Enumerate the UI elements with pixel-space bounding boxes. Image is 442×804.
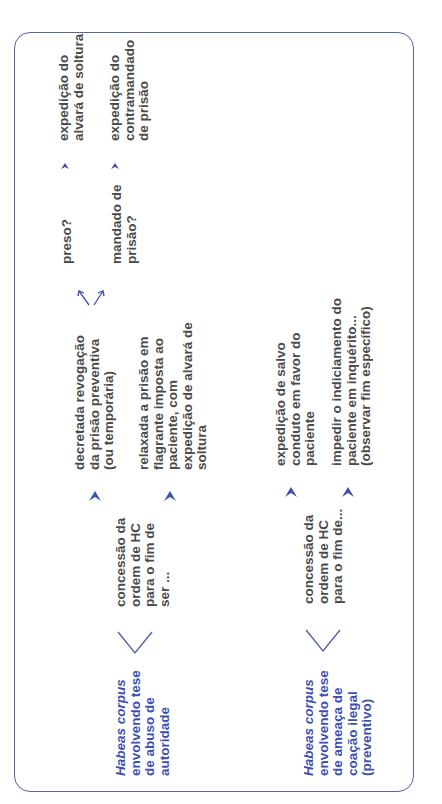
arrow-right-icon xyxy=(284,486,298,498)
result-contramandado: expedição do contramandado de prisão xyxy=(108,40,152,141)
arrow-right-icon xyxy=(163,490,177,502)
connector-concessao-abuso: concessão da ordem de HC para o fim de s… xyxy=(114,518,172,607)
outcome-impedir-indiciamento: impedir o indiciamento do paciente em in… xyxy=(330,298,374,466)
root-rest-label: envolvendo tese de ameaça de coação ileg… xyxy=(316,670,375,776)
arrow-right-icon xyxy=(341,486,355,498)
outcome-relaxada-prisao: relaxada a prisão em flagrante imposta a… xyxy=(137,322,210,470)
branch-chevron-icon xyxy=(116,630,154,656)
split-arrows-icon xyxy=(76,289,106,307)
branch-chevron-icon xyxy=(304,628,342,654)
rotated-diagram: Habeas corpus envolvendo tese de abuso d… xyxy=(0,0,442,804)
outcome-salvo-conduto: expedição de salvo conduto em favor do p… xyxy=(274,332,318,466)
connector-concessao-preventivo: concessão da ordem de HC para o fim de..… xyxy=(302,509,346,604)
arrow-right-icon xyxy=(88,490,102,502)
arrow-right-small-icon xyxy=(110,162,120,170)
question-preso: preso? xyxy=(60,219,75,264)
root-habeas-corpus-abuso: Habeas corpus envolvendo tese de abuso d… xyxy=(114,670,172,776)
root-rest-label: envolvendo tese de abuso de autoridade xyxy=(128,670,172,776)
question-mandado-prisao: mandado de prisão? xyxy=(110,184,139,264)
root-italic-label: Habeas corpus xyxy=(301,679,316,776)
arrow-right-small-icon xyxy=(60,162,70,170)
root-italic-label: Habeas corpus xyxy=(113,679,128,776)
outcome-revogacao-preventiva: decretada revogação da prisão preventiva… xyxy=(73,335,117,470)
root-habeas-corpus-preventivo: Habeas corpus envolvendo tese de ameaça … xyxy=(302,670,375,776)
result-alvara-soltura: expedição do alvará de soltura xyxy=(57,34,86,141)
